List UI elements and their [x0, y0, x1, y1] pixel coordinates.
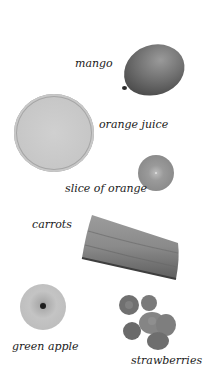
orange-juice-label: orange juice	[99, 119, 168, 130]
orange-slice-center	[155, 172, 157, 174]
green-apple-label: green apple	[12, 341, 79, 352]
mango-stem	[122, 86, 127, 90]
strawberries-label: strawberries	[131, 355, 202, 365]
apple-core	[40, 303, 46, 309]
mango-label: mango	[75, 58, 113, 69]
strawberries-image	[118, 295, 180, 351]
slice-of-orange-label: slice of orange	[65, 183, 147, 194]
carrots-label: carrots	[32, 219, 72, 230]
mango-image	[117, 37, 191, 104]
carrots-image	[80, 213, 180, 283]
orange-juice-image	[14, 94, 94, 172]
